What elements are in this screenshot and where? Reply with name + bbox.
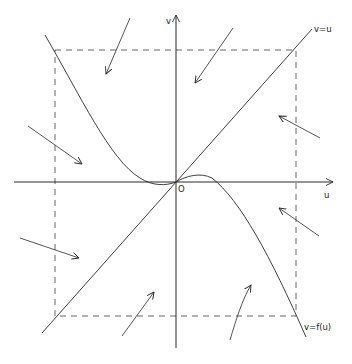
flow-arrow <box>195 28 233 83</box>
origin-label: O <box>178 184 185 194</box>
flow-arrow <box>279 116 320 138</box>
flow-arrow <box>122 292 154 336</box>
diagram-canvas: v u O v=u v=f(u) <box>0 0 352 364</box>
flow-arrow <box>20 238 79 258</box>
phase-plane-diagram: v u O v=u v=f(u) <box>0 0 352 364</box>
u-axis-label: u <box>324 190 329 200</box>
flow-arrows <box>20 18 320 340</box>
flow-arrow <box>230 285 251 340</box>
v-axis-label: v <box>166 16 171 26</box>
flow-arrow <box>106 18 130 74</box>
line-v-equals-u-label: v=u <box>314 24 332 34</box>
flow-arrow <box>279 208 319 236</box>
curve-v-equals-f-u-label: v=f(u) <box>304 322 331 332</box>
